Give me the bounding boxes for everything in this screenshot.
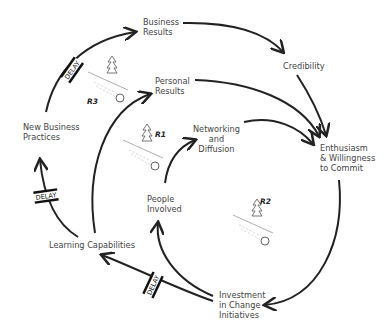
node-label: Networking bbox=[193, 124, 240, 134]
node-business-results: Business Results bbox=[143, 17, 179, 37]
node-networking: Networking and Diffusion bbox=[193, 124, 240, 154]
node-label: Business bbox=[143, 17, 179, 27]
node-label: and bbox=[193, 134, 240, 144]
node-label: Involved bbox=[147, 204, 182, 214]
node-label: Investment bbox=[219, 290, 265, 300]
node-label: in Change bbox=[219, 300, 265, 310]
node-credibility: Credibility bbox=[283, 61, 325, 71]
node-label: Enthusiasm bbox=[320, 143, 375, 153]
node-new-business-practices: New Business Practices bbox=[23, 122, 80, 142]
node-learning-capabilities: Learning Capabilities bbox=[49, 240, 135, 250]
snowball-icon bbox=[88, 56, 128, 102]
node-label: New Business bbox=[23, 122, 80, 132]
node-enthusiasm: Enthusiasm & Willingness to Commit bbox=[320, 143, 375, 173]
edge-business-to-credibility bbox=[183, 23, 283, 52]
delay-marker: DELAY bbox=[33, 189, 58, 202]
node-label: & Willingness bbox=[320, 153, 375, 163]
edge-learning-to-personal bbox=[92, 94, 150, 233]
edge-investment-to-people bbox=[158, 223, 213, 296]
node-label: Practices bbox=[23, 132, 80, 142]
node-label: Personal bbox=[155, 76, 190, 86]
edge-enthusiasm-to-investment bbox=[265, 180, 340, 305]
node-label: Initiatives bbox=[219, 310, 265, 320]
node-people-involved: People Involved bbox=[147, 194, 182, 214]
loop-label-r1: R1 bbox=[155, 130, 166, 139]
delay-marker: DELAY bbox=[143, 272, 162, 298]
node-personal-results: Personal Results bbox=[155, 76, 190, 96]
edge-networking-to-enthusiasm bbox=[244, 120, 313, 144]
node-label: Diffusion bbox=[193, 144, 240, 154]
loop-label-r2: R2 bbox=[260, 197, 271, 206]
node-investment: Investment in Change Initiatives bbox=[219, 290, 265, 320]
loop-label-r3: R3 bbox=[87, 97, 98, 106]
edge-people-to-networking bbox=[165, 140, 195, 183]
node-label: Results bbox=[143, 27, 179, 37]
node-label: Learning Capabilities bbox=[49, 240, 135, 250]
node-label: to Commit bbox=[320, 163, 375, 173]
node-label: Results bbox=[155, 86, 190, 96]
node-label: People bbox=[147, 194, 182, 204]
node-label: Credibility bbox=[283, 61, 325, 71]
